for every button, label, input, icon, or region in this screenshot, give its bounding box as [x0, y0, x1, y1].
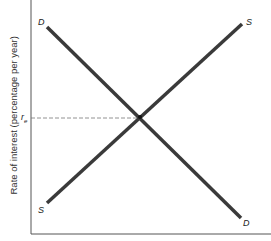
equilibrium-rate-label: re [21, 112, 27, 124]
demand-end-label: D [243, 218, 250, 228]
equilibrium-point [138, 115, 142, 119]
supply-curve [47, 24, 242, 203]
supply-end-label: S [246, 17, 252, 27]
y-axis-label: Rate of interest (percentage per year) [8, 45, 19, 195]
demand-start-label: D [38, 17, 45, 27]
supply-start-label: S [38, 205, 44, 215]
demand-curve [47, 27, 241, 218]
